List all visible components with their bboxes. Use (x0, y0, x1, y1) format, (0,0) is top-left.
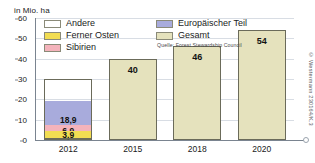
x-tick-label-2012: 2012 (44, 144, 92, 154)
y-tick-label-10: 10 (18, 115, 27, 124)
x-tick-label-2015: 2015 (109, 144, 157, 154)
copyright-notice: © Westermann 230164/K.3 (308, 52, 314, 126)
y-tick-label-40: 40 (18, 54, 27, 63)
bar-2012: 18,96,93,9 (44, 79, 92, 140)
y-axis-tick-labels: 0102030405060 (0, 18, 31, 140)
legend-label: Europäischer Teil (178, 19, 247, 28)
legend-swatch (44, 44, 61, 52)
x-tick-label-2020: 2020 (238, 144, 286, 154)
legend-swatch (44, 32, 61, 40)
y-tick-label-30: 30 (18, 75, 27, 84)
forest-area-bar-chart: in Mio. ha 0102030405060 0,318,96,93,940… (0, 0, 315, 163)
legend-item-europäischer-teil: Europäischer Teil (156, 18, 247, 29)
legend-item-andere: Andere (44, 18, 119, 29)
legend-item-gesamt: Gesamt (156, 30, 247, 41)
y-tick-label-20: 20 (18, 95, 27, 104)
legend-swatch (156, 20, 173, 28)
bar-2018: 46 (173, 46, 221, 140)
legend-label: Gesamt (178, 31, 210, 40)
bar-value-label: 40 (110, 66, 156, 75)
x-tick-label-2018: 2018 (173, 144, 221, 154)
y-tick-label-60: 60 (18, 14, 27, 23)
legend-label: Andere (66, 19, 95, 28)
legend-swatch (44, 20, 61, 28)
segment-value-label: 18,9 (45, 116, 91, 125)
legend-label: Ferner Osten (66, 31, 119, 40)
x-axis-end-marker (303, 137, 309, 143)
y-tick-label-50: 50 (18, 34, 27, 43)
bar-2015: 40 (109, 59, 157, 140)
legend-column-secondary: Europäischer TeilGesamt Quelle: Forest S… (156, 18, 247, 48)
legend-column-primary: AndereFerner OstenSibirien (44, 18, 119, 54)
bar-segment-andere (45, 138, 91, 139)
legend-swatch (156, 32, 173, 40)
source-note: Quelle: Forest Stewardship Council (157, 42, 247, 48)
bar-value-label: 46 (174, 53, 220, 62)
legend-item-sibirien: Sibirien (44, 42, 119, 53)
legend-item-ferner-osten: Ferner Osten (44, 30, 119, 41)
y-tick-label-0: 0 (23, 136, 27, 145)
legend-label: Sibirien (66, 43, 96, 52)
chart-legend: AndereFerner OstenSibirien Europäischer … (44, 18, 247, 54)
x-axis-line (35, 140, 307, 141)
